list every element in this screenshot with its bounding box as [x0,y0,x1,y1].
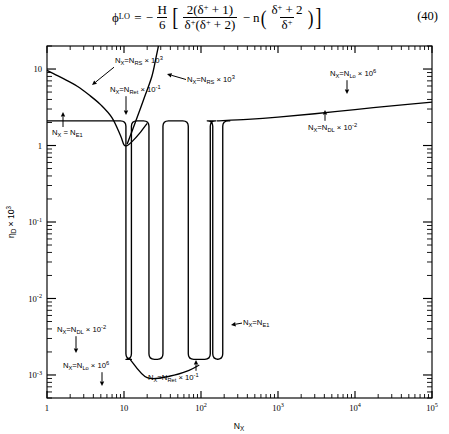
ann-nret-upper: NX=NRet × 10-1 [110,84,161,115]
ann-nlo-lower: NX=NLo × 106 [63,360,109,386]
ann-ne1-left-arrowhead [61,112,65,117]
ann-ndl-right-label: NX=NDL × 10-2 [308,122,357,133]
ann-nlo-lower-label: NX=NLo × 106 [63,360,109,371]
ann-nlo-upper: NX=NLo × 106 [330,68,376,94]
ann-nrs-upper-leader-line [96,67,114,82]
equation-paren-close: ) [308,9,314,26]
ann-nrs-right: NX=NRS × 103 [167,73,235,85]
equation-block: ϕLO = − H 6 [ 2(δ+ + 1) δ+(δ+ + 2) − n (… [0,0,449,40]
y-tick-label-0: 10 [33,64,42,74]
curve-plateau-with-notches [47,121,230,359]
equation-expression: ϕLO = − H 6 [ 2(δ+ + 1) δ+(δ+ + 2) − n (… [112,3,323,32]
ann-ne1-right-arrowhead [231,322,236,326]
equation-term1-fraction: 2(δ+ + 1) δ+(δ+ + 2) [183,3,238,32]
x-tick-label-5: 105 [426,401,438,413]
y-axis-tick-labels: 10110-110-210-3 [28,64,42,380]
ann-nret-upper-arrowhead [124,110,128,115]
equation-log-symbol: n [253,11,260,24]
equation-lhs-subscript: LO [119,13,130,21]
x-tick-label-4: 104 [349,401,361,413]
equation-bracket-open: [ [173,8,179,27]
x-axis-title: NX [234,421,245,432]
ann-ndl-lower: NX=NDL × 10-2 [57,324,106,353]
ann-nrs-right-label: NX=NRS × 103 [187,74,235,85]
y-tick-label-1: 1 [38,141,42,151]
x-tick-label-3: 103 [272,401,284,413]
ann-nrs-right-arrowhead [167,73,172,77]
equation-leading-minus: − [146,11,153,24]
ann-nrs-upper: NX=NRS × 103 [92,55,163,85]
equation-paren-open: ( [260,9,266,26]
equation-operator-minus: − [243,11,250,24]
equation-term1-denominator: δ+(δ+ + 2) [183,17,238,32]
ann-ndl-lower-arrowhead [74,348,78,353]
ann-nret-lower-label: NX=NRet × 10-1 [148,372,199,383]
equation-term2-fraction: δ+ + 2 δ+ [269,3,304,32]
equation-prefactor-denominator: 6 [157,17,168,32]
ann-nrs-right-leader-line [171,75,186,79]
plot-canvas: 110102103104105 10110-110-210-3 NX=NRS ×… [0,38,449,434]
x-tick-label-2: 102 [195,401,207,413]
svg-text:ηD × 103: ηD × 103 [5,205,17,238]
ann-ne1-left-label: NX = NE1 [52,128,83,138]
y-axis-title: ηD × 103 [5,205,17,238]
ann-ne1-left: NX = NE1 [52,112,83,138]
equation-bracket-close: ] [316,8,322,27]
ann-nlo-lower-arrowhead [100,381,104,386]
ann-ne1-right: NX=NE1 [231,318,269,328]
ann-ne1-right-label: NX=NE1 [243,318,269,328]
ann-nlo-upper-label: NX=NLo × 106 [330,68,376,79]
ann-nret-lower-arrowhead [194,360,198,365]
y-axis-ticks [47,46,432,398]
equation-prefactor-fraction: H 6 [156,3,169,32]
x-tick-label-0: 1 [45,403,49,413]
equation-term2-denominator: δ+ [280,17,295,32]
ann-ndl-lower-label: NX=NDL × 10-2 [57,324,106,335]
equation-number: (40) [417,9,438,24]
ann-nlo-upper-arrowhead [345,89,349,94]
equation-equals: = [134,11,141,24]
plot-frame [47,46,432,398]
y-tick-label-3: 10-2 [28,292,42,304]
equation-prefactor-numerator: H [156,3,169,17]
figure-log-log-plot: 110102103104105 10110-110-210-3 NX=NRS ×… [0,38,449,434]
svg-text:NX: NX [234,421,245,432]
y-tick-label-2: 10-1 [28,216,42,228]
y-tick-label-4: 10-3 [28,369,42,381]
ann-nrs-upper-label: NX=NRS × 103 [115,55,163,66]
ann-nret-lower: NX=NRet × 10-1 [148,360,199,383]
x-axis-ticks [47,46,432,398]
x-tick-label-1: 10 [120,403,129,413]
equation-term1-numerator: 2(δ+ + 1) [185,3,235,17]
ann-nret-upper-label: NX=NRet × 10-1 [110,84,161,95]
ann-ne1-right-leader-line [236,323,242,324]
x-axis-tick-labels: 110102103104105 [45,401,438,413]
equation-term2-numerator: δ+ + 2 [269,3,304,17]
equation-lhs-symbol: ϕ [112,11,119,24]
